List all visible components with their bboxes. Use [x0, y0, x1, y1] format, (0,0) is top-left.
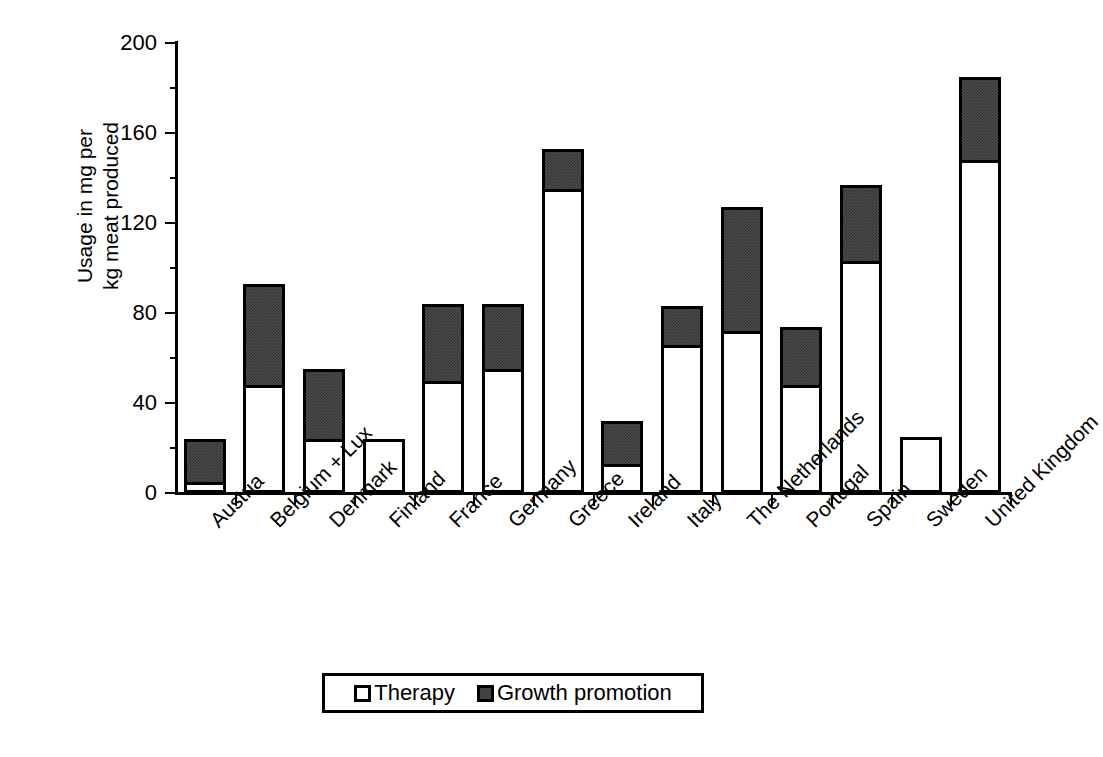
bar-segment-growth-promotion[interactable] [422, 304, 464, 384]
bar-group[interactable] [542, 43, 584, 493]
bar-segment-growth-promotion[interactable] [780, 327, 822, 389]
bar-group[interactable] [243, 43, 285, 493]
y-axis-tick-label: 40 [87, 392, 157, 414]
bar-segment-growth-promotion[interactable] [661, 306, 703, 347]
bar-segment-growth-promotion[interactable] [303, 369, 345, 442]
y-axis-tick-label: 120 [87, 212, 157, 234]
bar-group[interactable] [303, 43, 345, 493]
hollow-square-swatch-icon [354, 685, 371, 702]
filled-square-swatch-icon [477, 685, 494, 702]
bar-segment-growth-promotion[interactable] [959, 77, 1001, 163]
legend-item-growth-promotion: Growth promotion [477, 682, 672, 704]
bar-group[interactable] [422, 43, 464, 493]
y-axis-tick-label: 80 [87, 302, 157, 324]
bar-group[interactable] [959, 43, 1001, 493]
bar-group[interactable] [601, 43, 643, 493]
y-axis-tick-label: 0 [87, 482, 157, 504]
x-axis-category-label: Italy [683, 489, 725, 531]
bar-group[interactable] [482, 43, 524, 493]
bar-segment-growth-promotion[interactable] [243, 284, 285, 388]
bar-segment-growth-promotion[interactable] [721, 207, 763, 334]
bar-segment-therapy[interactable] [721, 331, 763, 493]
bar-group[interactable] [900, 43, 942, 493]
bar-group[interactable] [363, 43, 405, 493]
bar-group[interactable] [661, 43, 703, 493]
bar-group[interactable] [184, 43, 226, 493]
bar-segment-growth-promotion[interactable] [542, 149, 584, 193]
bar-segment-therapy[interactable] [959, 160, 1001, 493]
legend-item-therapy: Therapy [354, 682, 455, 704]
bar-segment-growth-promotion[interactable] [184, 439, 226, 485]
bar-group[interactable] [721, 43, 763, 493]
legend-label-therapy: Therapy [374, 682, 455, 704]
bar-segment-growth-promotion[interactable] [840, 185, 882, 265]
bar-segment-growth-promotion[interactable] [482, 304, 524, 372]
bar-group[interactable] [780, 43, 822, 493]
bar-segment-therapy[interactable] [840, 261, 882, 493]
bar-segment-therapy[interactable] [542, 189, 584, 493]
y-axis-tick-label: 200 [87, 32, 157, 54]
legend-label-growth-promotion: Growth promotion [497, 682, 672, 704]
y-axis-tick-label: 160 [87, 122, 157, 144]
chart-legend: Therapy Growth promotion [322, 673, 704, 713]
bar-segment-growth-promotion[interactable] [601, 421, 643, 467]
plot-area [175, 43, 1010, 493]
